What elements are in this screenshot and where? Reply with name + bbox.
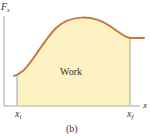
work-area-label: Work — [60, 67, 82, 77]
y-axis-label-subscript: x — [7, 7, 10, 13]
figure-caption: (b) — [66, 124, 78, 134]
x-start-label-subscript: i — [19, 113, 21, 121]
y-axis-label: Fx — [1, 2, 10, 13]
x-axis-label: x — [143, 101, 147, 110]
x-start-label: xi — [15, 109, 21, 121]
x-end-label-subscript: f — [131, 113, 133, 121]
x-end-label: xf — [127, 109, 133, 121]
work-area — [17, 18, 130, 105]
